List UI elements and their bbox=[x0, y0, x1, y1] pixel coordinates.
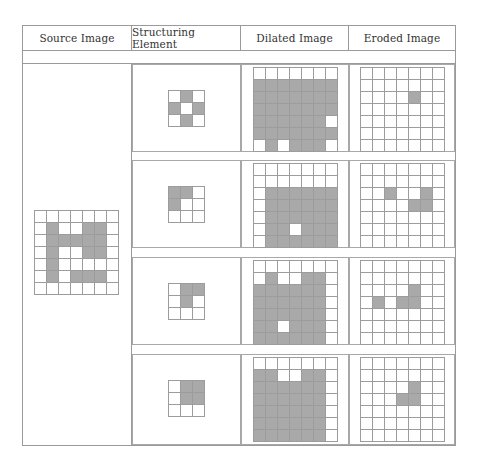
pixel-filled bbox=[302, 116, 314, 128]
pixel-empty bbox=[421, 92, 433, 104]
pixel-empty bbox=[373, 92, 385, 104]
pixel-empty bbox=[397, 224, 409, 236]
pixel-empty bbox=[326, 68, 338, 80]
pixel-empty bbox=[433, 370, 445, 382]
pixel-empty bbox=[421, 128, 433, 140]
pixel-filled bbox=[290, 80, 302, 92]
pixel-filled bbox=[302, 309, 314, 321]
pixel-empty bbox=[361, 370, 373, 382]
pixel-filled bbox=[278, 406, 290, 418]
pixel-empty bbox=[397, 333, 409, 345]
pixel-empty bbox=[421, 358, 433, 370]
pixel-filled bbox=[169, 187, 181, 199]
pixel-empty bbox=[373, 321, 385, 333]
pixel-empty bbox=[421, 297, 433, 309]
pixel-empty bbox=[254, 140, 266, 152]
pixel-filled bbox=[278, 116, 290, 128]
pixel-empty bbox=[278, 321, 290, 333]
pixel-empty bbox=[433, 418, 445, 430]
pixel-empty bbox=[254, 261, 266, 273]
pixel-empty bbox=[326, 370, 338, 382]
pixel-empty bbox=[421, 406, 433, 418]
pixel-empty bbox=[373, 116, 385, 128]
pixel-filled bbox=[254, 297, 266, 309]
pixel-empty bbox=[409, 68, 421, 80]
pixel-empty bbox=[397, 406, 409, 418]
pixel-filled bbox=[278, 382, 290, 394]
pixel-empty bbox=[397, 236, 409, 248]
pixel-empty bbox=[361, 68, 373, 80]
pixel-empty bbox=[59, 259, 71, 271]
pixel-empty bbox=[373, 200, 385, 212]
pixel-empty bbox=[421, 68, 433, 80]
pixel-empty bbox=[385, 321, 397, 333]
pixel-empty bbox=[373, 224, 385, 236]
pixel-filled bbox=[266, 394, 278, 406]
pixel-filled bbox=[302, 333, 314, 345]
pixel-empty bbox=[361, 164, 373, 176]
pixel-empty bbox=[397, 92, 409, 104]
pixel-filled bbox=[266, 297, 278, 309]
pixel-filled bbox=[302, 224, 314, 236]
pixel-filled bbox=[326, 188, 338, 200]
operation-row bbox=[132, 160, 455, 248]
pixel-empty bbox=[433, 309, 445, 321]
pixel-empty bbox=[254, 236, 266, 248]
pixel-empty bbox=[421, 418, 433, 430]
pixel-filled bbox=[254, 382, 266, 394]
pixel-empty bbox=[421, 224, 433, 236]
pixel-empty bbox=[326, 273, 338, 285]
pixel-empty bbox=[433, 236, 445, 248]
pixel-filled bbox=[409, 382, 421, 394]
pixel-empty bbox=[83, 283, 95, 295]
pixel-empty bbox=[107, 259, 119, 271]
pixel-empty bbox=[397, 200, 409, 212]
pixel-filled bbox=[254, 285, 266, 297]
pixel-empty bbox=[278, 273, 290, 285]
pixel-filled bbox=[278, 104, 290, 116]
pixel-filled bbox=[254, 128, 266, 140]
pixel-filled bbox=[314, 285, 326, 297]
pixel-filled bbox=[290, 406, 302, 418]
pixel-empty bbox=[421, 382, 433, 394]
pixel-empty bbox=[373, 358, 385, 370]
pixel-empty bbox=[278, 358, 290, 370]
operation-row bbox=[132, 354, 455, 445]
pixel-empty bbox=[71, 259, 83, 271]
pixel-filled bbox=[302, 188, 314, 200]
pixel-filled bbox=[181, 115, 193, 127]
pixel-filled bbox=[266, 321, 278, 333]
source-image-cell bbox=[23, 64, 132, 445]
pixel-empty bbox=[326, 176, 338, 188]
eroded-image-grid bbox=[360, 357, 445, 442]
pixel-filled bbox=[314, 212, 326, 224]
pixel-filled bbox=[314, 321, 326, 333]
pixel-empty bbox=[181, 103, 193, 115]
pixel-empty bbox=[433, 128, 445, 140]
pixel-empty bbox=[385, 406, 397, 418]
pixel-empty bbox=[290, 224, 302, 236]
pixel-filled bbox=[290, 236, 302, 248]
pixel-empty bbox=[278, 164, 290, 176]
pixel-filled bbox=[254, 430, 266, 442]
pixel-empty bbox=[361, 176, 373, 188]
pixel-empty bbox=[421, 164, 433, 176]
pixel-empty bbox=[169, 284, 181, 296]
pixel-empty bbox=[314, 176, 326, 188]
header-dilated-image: Dilated Image bbox=[241, 26, 349, 51]
pixel-filled bbox=[193, 103, 205, 115]
pixel-filled bbox=[314, 297, 326, 309]
pixel-empty bbox=[361, 188, 373, 200]
pixel-empty bbox=[278, 140, 290, 152]
pixel-empty bbox=[266, 358, 278, 370]
pixel-filled bbox=[302, 80, 314, 92]
pixel-empty bbox=[361, 382, 373, 394]
pixel-empty bbox=[193, 308, 205, 320]
pixel-empty bbox=[385, 224, 397, 236]
pixel-empty bbox=[409, 430, 421, 442]
pixel-empty bbox=[385, 200, 397, 212]
pixel-empty bbox=[409, 333, 421, 345]
pixel-empty bbox=[373, 128, 385, 140]
pixel-empty bbox=[302, 68, 314, 80]
pixel-empty bbox=[409, 212, 421, 224]
